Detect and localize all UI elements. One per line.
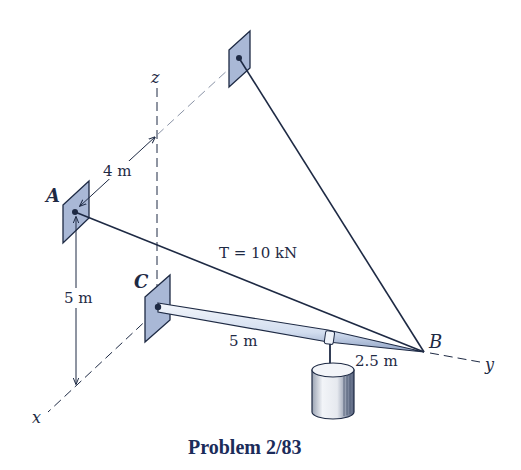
x-axis-label: x [32,408,41,427]
boom-collar [324,331,335,345]
dimension-5m-vertical: 5 m [62,217,94,384]
boom-cb [155,303,424,352]
top-dashed-guide [157,68,230,135]
problem-diagram: z x y A C 4 m 5 m [0,0,521,470]
point-a-label: A [44,185,60,206]
tension-label: T = 10 kN [219,244,297,262]
z-axis-label: z [150,68,160,87]
dimension-4m-label: 4 m [103,162,132,180]
cable-top-b [239,58,424,352]
anchor-plate-a: A [44,181,89,243]
point-b-label: B [428,331,442,352]
y-axis-label: y [484,355,495,374]
z-axis: z [150,68,160,300]
x-axis: x [32,314,153,427]
dimension-5m-vertical-label: 5 m [64,289,93,307]
problem-title: Problem 2/83 [188,436,302,458]
dimension-4m: 4 m [80,137,155,206]
dimension-5m-boom-label: 5 m [229,332,258,350]
hanging-cylinder-weight [312,344,354,419]
cable-ab [75,212,424,352]
dimension-2-5m-label: 2.5 m [355,352,398,370]
point-c-label: C [134,271,149,292]
y-axis: y [430,353,495,374]
